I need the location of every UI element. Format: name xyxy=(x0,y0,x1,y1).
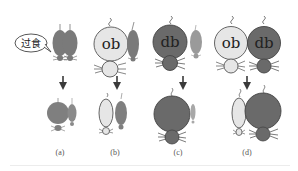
normal-mouse-bottom-enlarged xyxy=(47,98,69,131)
normal-mouse-top xyxy=(127,22,139,62)
caption-d: (d) xyxy=(242,148,252,157)
db-label: db xyxy=(160,33,179,51)
normal-mouse-top xyxy=(190,25,202,59)
ob-mouse-top: ob xyxy=(215,16,248,73)
db-mouse-bottom xyxy=(154,88,190,144)
ob-mouse-bottom-starved xyxy=(232,89,246,136)
caption-b: (b) xyxy=(110,148,120,157)
normal-mouse-bottom-thin xyxy=(68,98,77,126)
ob-mouse-bottom-slimmed xyxy=(99,93,113,135)
db-label: db xyxy=(254,34,273,52)
parabiosis-figure: 过食 (a) xyxy=(0,0,298,171)
overeating-speech-bubble: 过食 xyxy=(15,34,51,52)
bubble-text: 过食 xyxy=(21,37,41,49)
normal-mouse-top-right xyxy=(63,24,78,61)
caption-a: (a) xyxy=(56,148,65,157)
panel-a: 过食 (a) xyxy=(15,24,78,157)
panel-b: ob (b) xyxy=(94,18,139,157)
ob-label: ob xyxy=(222,34,241,52)
caption-c: (c) xyxy=(174,148,183,157)
db-mouse-bottom xyxy=(245,85,281,141)
db-mouse-top: db xyxy=(248,16,281,73)
ob-mouse-top: ob xyxy=(94,18,128,77)
panel-d: ob db (d) xyxy=(215,16,282,157)
ob-label: ob xyxy=(102,35,121,53)
panel-c: db (c) xyxy=(153,16,202,157)
normal-mouse-bottom-starved xyxy=(191,104,196,124)
divider xyxy=(10,165,290,166)
db-mouse-top: db xyxy=(153,16,187,71)
normal-mouse-bottom xyxy=(115,93,127,130)
